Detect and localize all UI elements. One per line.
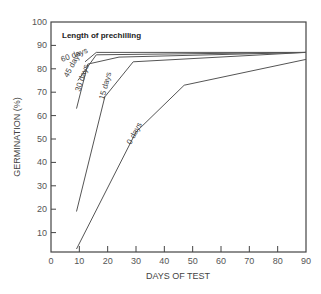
y-tick-label: 20 — [37, 204, 47, 214]
x-tick-label: 30 — [131, 256, 141, 266]
y-tick-label: 10 — [37, 228, 47, 238]
y-axis-title: GERMINATION (%) — [12, 97, 22, 176]
x-axis-title: DAYS OF TEST — [146, 271, 211, 281]
y-tick-label: 90 — [37, 40, 47, 50]
x-axis-ticks: 0102030405060708090 — [48, 246, 311, 266]
series-line — [77, 59, 307, 249]
x-tick-label: 40 — [159, 256, 169, 266]
series-label: 30 days — [73, 63, 90, 92]
x-tick-label: 20 — [103, 256, 113, 266]
plot-frame — [51, 22, 306, 252]
x-tick-label: 10 — [74, 256, 84, 266]
series-lines — [77, 52, 307, 249]
y-axis-ticks: 102030405060708090100 — [32, 17, 56, 238]
y-tick-label: 30 — [37, 181, 47, 191]
series-label: 15 days — [97, 71, 113, 100]
y-tick-label: 70 — [37, 87, 47, 97]
x-tick-label: 70 — [244, 256, 254, 266]
y-tick-label: 60 — [37, 111, 47, 121]
x-tick-label: 50 — [188, 256, 198, 266]
y-tick-label: 40 — [37, 157, 47, 167]
x-tick-label: 90 — [301, 256, 311, 266]
y-tick-label: 100 — [32, 17, 47, 27]
x-tick-label: 60 — [216, 256, 226, 266]
y-tick-label: 80 — [37, 64, 47, 74]
series-label: 0 days — [125, 121, 144, 146]
germination-line-chart: 102030405060708090100 010203040506070809… — [0, 0, 321, 294]
x-tick-label: 80 — [273, 256, 283, 266]
y-tick-label: 50 — [37, 134, 47, 144]
x-tick-label: 0 — [48, 256, 53, 266]
legend-title: Length of prechilling — [62, 31, 141, 40]
